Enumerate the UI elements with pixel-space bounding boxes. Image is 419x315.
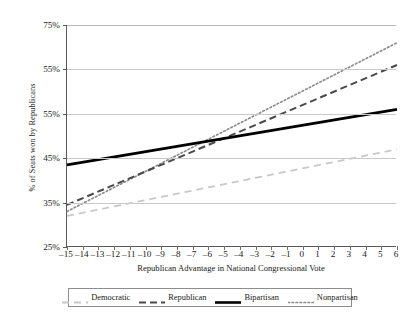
chart-legend: DemocraticRepublicanBipartisanNonpartisa…	[68, 288, 352, 307]
x-axis-tick-label: –15	[59, 249, 73, 259]
gridline	[67, 25, 396, 26]
x-axis-tick-label: –12	[106, 249, 120, 259]
legend-item-democratic[interactable]: Democratic	[62, 293, 130, 302]
x-axis-tick-label: 4	[362, 249, 367, 259]
y-axis-tick-label: 25%	[14, 242, 60, 252]
legend-swatch-republican	[139, 293, 165, 302]
series-line-nonpartisan	[67, 43, 397, 212]
gridline	[67, 114, 396, 115]
x-axis-tick-label: –10	[138, 249, 152, 259]
y-axis-tick-mark	[63, 69, 67, 70]
gridline	[67, 203, 396, 204]
series-line-republican	[67, 65, 397, 205]
plot-area	[66, 25, 396, 247]
gridline	[67, 158, 396, 159]
legend-label: Bipartisan	[244, 293, 278, 302]
legend-swatch-bipartisan	[215, 293, 241, 302]
y-axis-tick-mark	[63, 25, 67, 26]
x-axis-tick-label: 5	[378, 249, 383, 259]
y-axis-tick-mark	[63, 203, 67, 204]
x-axis-title: Republican Advantage in National Congres…	[66, 263, 396, 273]
x-axis-tick-label: 6	[394, 249, 399, 259]
x-axis-tick-label: 0	[299, 249, 304, 259]
x-axis-tick-label: –14	[75, 249, 89, 259]
x-axis-tick-label: –9	[156, 249, 165, 259]
x-axis-tick-label: –13	[91, 249, 105, 259]
x-axis-tick-label: –3	[250, 249, 259, 259]
legend-item-bipartisan[interactable]: Bipartisan	[215, 293, 278, 302]
x-axis-tick-label: –5	[219, 249, 228, 259]
y-axis-tick-label: 35%	[14, 198, 60, 208]
legend-swatch-nonpartisan	[288, 293, 314, 302]
legend-item-nonpartisan[interactable]: Nonpartisan	[288, 293, 358, 302]
chart-figure: % of Seats won by Republicans 75%55%55%4…	[0, 0, 419, 315]
legend-label: Republican	[168, 293, 206, 302]
x-axis-tick-label: 1	[315, 249, 320, 259]
legend-item-republican[interactable]: Republican	[139, 293, 206, 302]
y-axis-tick-label: 75%	[14, 20, 60, 30]
x-axis-tick-label: –1	[281, 249, 290, 259]
legend-label: Democratic	[91, 293, 130, 302]
series-line-bipartisan	[67, 109, 397, 165]
x-axis-tick-label: 2	[331, 249, 336, 259]
x-axis-tick-label: –11	[122, 249, 135, 259]
legend-label: Nonpartisan	[317, 293, 358, 302]
x-axis-tick-labels: –15–14–13–12–11–10–9–8–7–6–5–4–3–2–10123…	[66, 249, 396, 263]
gridline	[67, 69, 396, 70]
x-axis-tick-label: –7	[187, 249, 196, 259]
series-line-democratic	[67, 149, 397, 216]
x-axis-tick-label: –4	[234, 249, 243, 259]
series-lines	[67, 25, 397, 247]
legend-swatch-democratic	[62, 293, 88, 302]
y-axis-tick-labels: 75%55%55%45%35%25%	[14, 0, 60, 315]
y-axis-tick-label: 55%	[14, 109, 60, 119]
y-axis-tick-mark	[63, 158, 67, 159]
x-axis-tick-label: 3	[347, 249, 352, 259]
x-axis-tick-label: –6	[203, 249, 212, 259]
y-axis-tick-label: 55%	[14, 64, 60, 74]
x-axis-tick-label: –2	[266, 249, 275, 259]
y-axis-tick-label: 45%	[14, 153, 60, 163]
x-axis-tick-label: –8	[171, 249, 180, 259]
y-axis-tick-mark	[63, 114, 67, 115]
